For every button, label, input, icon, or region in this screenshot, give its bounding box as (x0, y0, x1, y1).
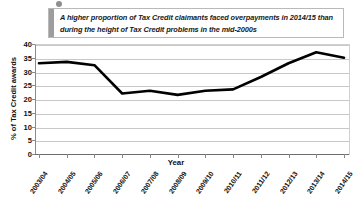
x-tick-mark (122, 154, 123, 158)
callout-box: A higher proportion of Tax Credit claima… (48, 8, 344, 38)
series-line (35, 44, 348, 154)
y-tick-mark (31, 154, 35, 155)
x-tick-label: 2012/13 (278, 170, 298, 195)
x-tick-label: 2013/14 (306, 170, 326, 195)
y-tick-mark (31, 72, 35, 73)
line-chart: % of Tax Credit awards 0510152025303540 … (0, 44, 352, 205)
callout-accent-bar (49, 9, 54, 37)
x-tick-label: 2006/07 (112, 170, 132, 195)
data-series-line (39, 52, 344, 95)
x-axis-title: Year (0, 158, 352, 167)
x-tick-mark (316, 154, 317, 158)
x-tick-label: 2004/05 (56, 170, 76, 195)
callout-frame: A higher proportion of Tax Credit claima… (48, 8, 344, 38)
y-axis-tick-labels: 0510152025303540 (14, 44, 32, 154)
callout-dot-icon (56, 1, 62, 7)
x-tick-mark (233, 154, 234, 158)
x-tick-label: 2010/11 (223, 170, 243, 194)
x-tick-label: 2007/08 (139, 170, 159, 195)
x-tick-mark (289, 154, 290, 158)
y-tick-mark (31, 44, 35, 45)
x-tick-mark (67, 154, 68, 158)
x-tick-label: 2008/09 (167, 170, 187, 195)
x-tick-mark (178, 154, 179, 158)
x-tick-mark (261, 154, 262, 158)
y-tick-mark (31, 99, 35, 100)
x-tick-mark (94, 154, 95, 158)
y-tick-mark (31, 113, 35, 114)
x-axis-line (35, 154, 349, 155)
y-tick-mark (31, 58, 35, 59)
y-tick-mark (31, 127, 35, 128)
x-tick-label: 2003/04 (28, 170, 48, 195)
x-tick-mark (205, 154, 206, 158)
callout-text: A higher proportion of Tax Credit claima… (60, 12, 339, 35)
x-tick-label: 2011/12 (251, 170, 271, 194)
x-tick-label: 2009/10 (195, 170, 215, 195)
y-tick-mark (31, 140, 35, 141)
x-tick-mark (150, 154, 151, 158)
x-tick-label: 2005/06 (84, 170, 104, 195)
x-tick-mark (344, 154, 345, 158)
x-tick-mark (39, 154, 40, 158)
x-tick-label: 2014/15 (333, 170, 353, 195)
y-tick-mark (31, 85, 35, 86)
